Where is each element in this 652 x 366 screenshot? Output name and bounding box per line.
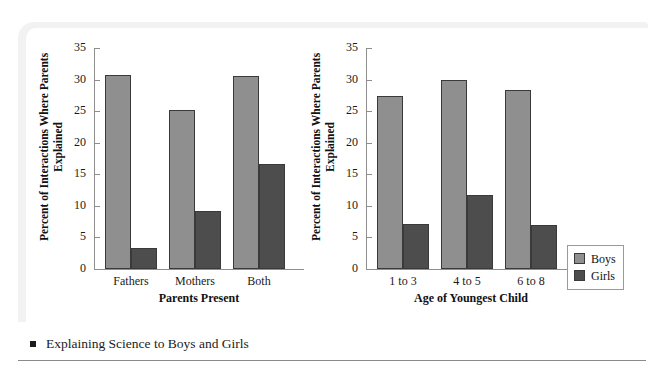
y-tick-label: 10: [74, 198, 86, 213]
bar-girls[interactable]: [531, 225, 557, 269]
x-axis-label-right: Age of Youngest Child: [366, 291, 576, 306]
bar-girls[interactable]: [403, 224, 429, 269]
bar-boys[interactable]: [505, 90, 531, 269]
chart-panel-parents-present: Percent of Interactions Where Parents Ex…: [30, 36, 302, 294]
x-axis-line-left: [94, 269, 304, 270]
y-tick-label: 35: [74, 40, 86, 55]
square-bullet-icon: [30, 341, 36, 347]
legend-swatch-boys-icon: [574, 253, 585, 264]
figure-caption-text: Explaining Science to Boys and Girls: [46, 336, 249, 352]
figure-caption: Explaining Science to Boys and Girls: [30, 336, 249, 352]
legend-item-boys[interactable]: Boys: [574, 250, 616, 267]
bars-layer-right: 1 to 34 to 56 to 8: [367, 48, 562, 269]
legend-item-label: Girls: [591, 270, 615, 282]
y-tick-right-0: 0: [367, 269, 372, 270]
bar-boys[interactable]: [105, 75, 131, 269]
y-tick-label: 25: [346, 103, 358, 118]
x-tick-label: 1 to 3: [368, 274, 438, 289]
chart-legend: BoysGirls: [567, 245, 624, 290]
y-tick-label: 0: [352, 261, 358, 276]
bar-group: Both: [227, 48, 291, 269]
bar-girls[interactable]: [467, 195, 493, 269]
legend-swatch-girls-icon: [574, 270, 585, 281]
legend-item-label: Boys: [591, 253, 616, 265]
bar-group: 6 to 8: [499, 48, 563, 269]
y-tick-label: 0: [80, 261, 86, 276]
bar-boys[interactable]: [169, 110, 195, 269]
x-axis-line-right: [366, 269, 576, 270]
y-axis-label-right: Percent of Interactions Where Parents Ex…: [306, 36, 340, 258]
bars-layer-left: FathersMothersBoth: [95, 48, 290, 269]
bar-boys[interactable]: [233, 76, 259, 269]
figure-page: Percent of Interactions Where Parents Ex…: [0, 0, 652, 366]
y-tick-label: 20: [346, 135, 358, 150]
y-tick-label: 5: [80, 229, 86, 244]
x-tick-label: Fathers: [96, 274, 166, 289]
y-axis-label-left: Percent of Interactions Where Parents Ex…: [34, 36, 68, 258]
y-tick-label: 25: [74, 103, 86, 118]
y-tick-left-0: 0: [95, 269, 100, 270]
bar-girls[interactable]: [195, 211, 221, 269]
x-tick-label: 6 to 8: [496, 274, 566, 289]
x-tick-label: Mothers: [160, 274, 230, 289]
legend-item-girls[interactable]: Girls: [574, 267, 616, 284]
y-tick-label: 5: [352, 229, 358, 244]
bar-group: 1 to 3: [371, 48, 435, 269]
bar-group: Fathers: [99, 48, 163, 269]
y-tick-label: 30: [346, 72, 358, 87]
bar-boys[interactable]: [377, 96, 403, 269]
y-tick-label: 35: [346, 40, 358, 55]
footer-rule: [18, 360, 646, 361]
y-tick-label: 15: [74, 166, 86, 181]
bar-group: 4 to 5: [435, 48, 499, 269]
bar-group: Mothers: [163, 48, 227, 269]
y-tick-label: 10: [346, 198, 358, 213]
plot-area-right: 05101520253035 1 to 34 to 56 to 8: [366, 48, 562, 270]
bar-girls[interactable]: [259, 164, 285, 269]
x-tick-label: Both: [224, 274, 294, 289]
plot-area-left: 05101520253035 FathersMothersBoth: [94, 48, 290, 270]
y-tick-label: 20: [74, 135, 86, 150]
x-tick-label: 4 to 5: [432, 274, 502, 289]
chart-panel-age-of-youngest-child: Percent of Interactions Where Parents Ex…: [302, 36, 574, 294]
y-tick-label: 15: [346, 166, 358, 181]
bar-girls[interactable]: [131, 248, 157, 269]
bar-boys[interactable]: [441, 80, 467, 269]
y-tick-label: 30: [74, 72, 86, 87]
x-axis-label-left: Parents Present: [94, 291, 304, 306]
